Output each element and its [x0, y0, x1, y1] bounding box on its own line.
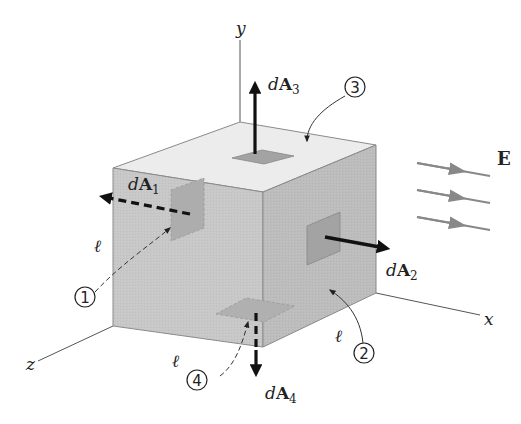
- marker-2: 2: [354, 343, 374, 363]
- diagram-canvas: 1 2 3 4 E y x z ℓ ℓ ℓ dA3 dA1 dA2 dA4: [0, 0, 521, 424]
- edge-length-label-left: ℓ: [94, 236, 101, 256]
- z-axis: [38, 326, 113, 361]
- marker-4-label: 4: [192, 372, 202, 390]
- x-axis: [376, 293, 480, 315]
- marker-1: 1: [75, 287, 95, 307]
- y-axis-label: y: [235, 18, 246, 38]
- field-label: E: [497, 148, 511, 169]
- marker-3: 3: [345, 77, 365, 97]
- label-dA2: dA2: [386, 260, 418, 283]
- label-dA3: dA3: [268, 74, 300, 97]
- z-axis-label: z: [25, 354, 36, 374]
- x-axis-label: x: [484, 309, 494, 329]
- marker-3-label: 3: [350, 79, 360, 97]
- gauss-cube-diagram: 1 2 3 4 E y x z ℓ ℓ ℓ dA3 dA1 dA2 dA4: [0, 0, 521, 424]
- label-dA4: dA4: [265, 383, 297, 406]
- marker-4: 4: [187, 370, 207, 390]
- marker-1-label: 1: [80, 289, 90, 307]
- electric-field: E: [417, 148, 511, 230]
- edge-length-label-front: ℓ: [172, 351, 179, 371]
- marker-2-label: 2: [359, 345, 369, 363]
- edge-length-label-right: ℓ: [335, 326, 342, 346]
